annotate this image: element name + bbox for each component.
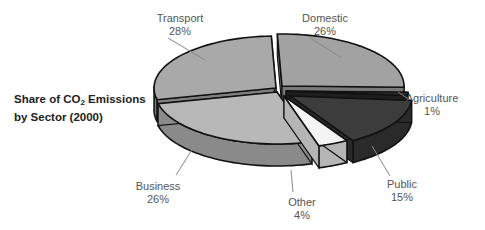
slice-top-transport xyxy=(154,36,276,100)
slice-label-domestic: Domestic xyxy=(302,12,348,24)
leader-line-business xyxy=(176,148,193,175)
slice-label-transport: Transport xyxy=(157,12,204,24)
slice-value-transport: 28% xyxy=(169,25,191,37)
slice-value-public: 15% xyxy=(391,191,413,203)
slice-label-public: Public xyxy=(387,178,417,190)
slice-value-business: 26% xyxy=(147,193,169,205)
slice-value-agriculture: 1% xyxy=(424,105,440,117)
slice-value-other: 4% xyxy=(294,209,310,221)
leader-line-other xyxy=(291,170,293,192)
slice-top-domestic xyxy=(277,34,404,87)
slice-label-agriculture: Agriculture xyxy=(406,92,459,104)
pie-chart: Transport28%Domestic26%Agriculture1%Publ… xyxy=(0,0,485,230)
slice-label-business: Business xyxy=(136,180,181,192)
slice-label-other: Other xyxy=(288,196,316,208)
slice-value-domestic: 26% xyxy=(314,25,336,37)
